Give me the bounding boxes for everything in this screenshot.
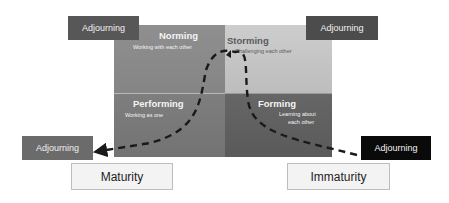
team-development-curve [0, 0, 449, 203]
dashed-arrow-path [100, 51, 357, 155]
